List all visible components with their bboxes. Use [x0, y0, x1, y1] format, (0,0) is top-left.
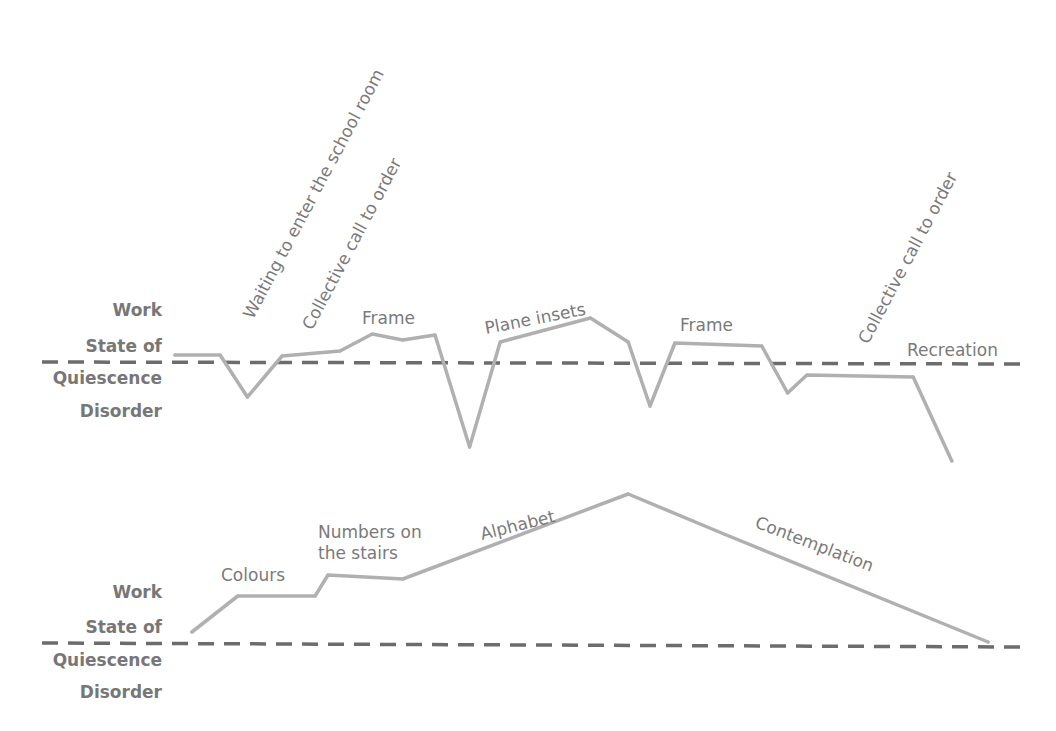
top-series-point-12 [648, 404, 651, 407]
top-series-point-15 [786, 391, 789, 394]
bottom-series-point-3 [326, 573, 329, 576]
top-annotation-waiting: Waiting to enter the school room [239, 66, 388, 322]
top-annotation-frame-2: Frame [680, 315, 733, 335]
bottom-annotation-the-stairs: the stairs [318, 543, 398, 563]
top-series-line [175, 318, 952, 461]
bottom-annotation-alphabet: Alphabet [478, 506, 557, 544]
bottom-annotation-contemplation: Contemplation [753, 512, 877, 576]
top-annotation-recreation: Recreation [907, 340, 998, 360]
bottom-series-point-5 [627, 492, 630, 495]
top-series-point-7 [433, 333, 436, 336]
bottom-series-point-6 [722, 532, 725, 535]
top-ylabel-quiescence: Quiescence [53, 368, 162, 388]
top-series-point-3 [280, 354, 283, 357]
bottom-series-point-2 [313, 594, 316, 597]
top-series-point-13 [673, 341, 676, 344]
top-ylabel-state-of: State of [86, 336, 163, 356]
bottom-ylabel-state-of: State of [86, 617, 163, 637]
bottom-baseline [42, 643, 1022, 647]
bottom-series-point-0 [190, 630, 193, 633]
top-series-point-16 [805, 373, 808, 376]
bottom-series-point-7 [986, 640, 989, 643]
bottom-ylabel-quiescence: Quiescence [53, 650, 162, 670]
top-series-point-9 [499, 340, 502, 343]
top-series-point-10 [589, 316, 592, 319]
top-series-point-6 [401, 338, 404, 341]
top-ylabel-disorder: Disorder [80, 401, 163, 421]
bottom-series-point-4 [401, 577, 404, 580]
bottom-annotation-numbers-on: Numbers on [318, 522, 422, 542]
chart: Work State of Quiescence Disorder Waitin… [0, 0, 1056, 731]
top-series-point-4 [338, 349, 341, 352]
top-series-point-14 [760, 344, 763, 347]
top-series-point-2 [246, 395, 249, 398]
top-ylabel-work: Work [112, 300, 162, 320]
bottom-annotation-colours: Colours [221, 565, 285, 585]
top-series-point-0 [173, 353, 176, 356]
top-baseline [42, 362, 1022, 364]
top-series-point-18 [950, 459, 953, 462]
bottom-ylabel-disorder: Disorder [80, 682, 163, 702]
top-annotation-frame-1: Frame [362, 308, 415, 328]
bottom-series-point-1 [236, 594, 239, 597]
top-series-point-17 [912, 375, 915, 378]
top-series-point-8 [468, 445, 471, 448]
bottom-ylabel-work: Work [112, 582, 162, 602]
top-annotation-collective-2: Collective call to order [854, 169, 961, 347]
top-series-point-1 [218, 353, 221, 356]
top-series-point-11 [627, 340, 630, 343]
top-series-point-5 [371, 332, 374, 335]
